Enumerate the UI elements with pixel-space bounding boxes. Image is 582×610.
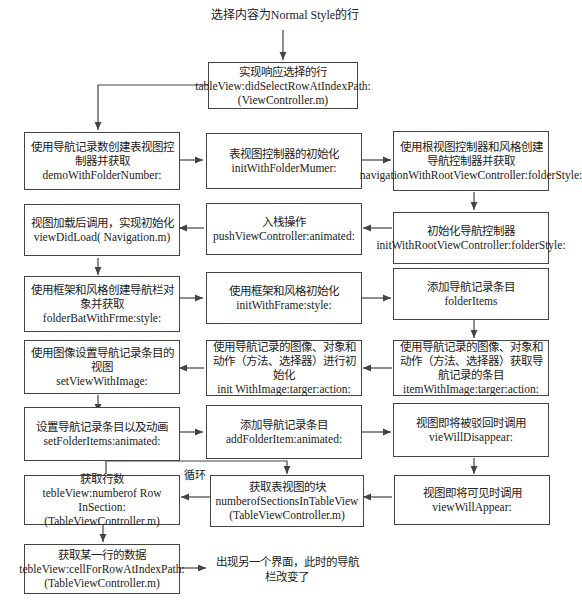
start-label: 选择内容为Normal Style的行: [200, 8, 370, 23]
node-set-folder-items: 设置导航记录条目以及动画 setFolderItems:animated:: [24, 407, 180, 461]
node-title: 添加导航记录条目: [240, 418, 328, 432]
node-title: 设置导航记录条目以及动画: [36, 420, 168, 434]
node-set-view-with-image: 使用图像设置导航记录条目的视图 setViewWithImage:: [24, 340, 180, 394]
node-demo-with-folder-number: 使用导航记录数创建表视图控制器并获取 demoWithFolderNumber:: [24, 132, 180, 190]
node-method: tableView:didSelectRowAtIndexPath:(ViewC…: [195, 79, 371, 107]
node-title: 使用导航记录的图像、对象和动作（方法、选择器）获取导航记录的条目: [397, 340, 545, 382]
node-method: pushViewController:animated:: [213, 229, 355, 243]
node-method: setFolderItems:animated:: [44, 434, 161, 448]
node-method: addFolderItem:animated:: [226, 432, 342, 446]
node-method: folderBatWithFrme:style:: [43, 311, 161, 325]
node-item-with-image: 使用导航记录的图像、对象和动作（方法、选择器）获取导航记录的条目 itemWit…: [393, 340, 549, 396]
node-view-did-load: 视图加载后调用，实现初始化 viewDidLoad( Navigation.m): [24, 204, 180, 256]
node-title: 使用图像设置导航记录条目的视图: [28, 346, 176, 374]
node-title: 视图即将被驳回时调用: [416, 416, 526, 430]
node-init-with-root-view-controller: 初始化导航控制器 initWithRootViewController:fold…: [393, 212, 549, 264]
node-method: viewDidLoad( Navigation.m): [34, 230, 171, 244]
node-method: initWithFrame:style:: [236, 298, 331, 312]
node-title: 表视图控制器的初始化: [229, 147, 339, 161]
node-number-of-sections: 获取表视图的块 numberofSectionsInTableView (Tab…: [210, 475, 364, 527]
node-method: init WithImage:targer:action:: [217, 382, 351, 396]
node-number-of-rows: 获取行数 tebleView:numberof Row InSection:(T…: [24, 475, 180, 525]
node-method: vieWillDisappear:: [429, 430, 513, 444]
node-method: demoWithFolderNumber:: [43, 168, 162, 182]
node-init-with-frame: 使用框架和风格初始化 initWithFrame:style:: [206, 272, 362, 324]
node-add-folder-item: 添加导航记录条目 addFolderItem:animated:: [206, 405, 362, 459]
node-title: 使用根视图控制器和风格创建导航控制器并获取: [397, 140, 545, 168]
node-method: navigationWithRootViewController:folderS…: [360, 168, 582, 182]
node-title: 获取行数: [80, 472, 124, 486]
node-title: 获取表视图的块: [249, 480, 326, 494]
node-method: numberofSectionsInTableView (TableViewCo…: [214, 494, 360, 522]
node-title: 视图加载后调用，实现初始化: [31, 216, 174, 230]
node-title: 使用框架和风格创建导航栏对象并获取: [28, 283, 176, 311]
node-method: tebleView:cellForRowAtIndexPath:(TableVi…: [19, 562, 184, 590]
node-title: 使用导航记录的图像、对象和动作（方法、选择器）进行初始化: [210, 340, 358, 382]
node-title: 添加导航记录条目: [427, 280, 515, 294]
node-method: tebleView:numberof Row InSection:(TableV…: [28, 486, 176, 528]
node-method: itemWithImage:targer:action:: [403, 382, 539, 396]
loop-label: 循环: [183, 468, 207, 483]
node-init-with-folder-mumer: 表视图控制器的初始化 initWithFolderMumer:: [206, 133, 362, 189]
node-title: 使用框架和风格初始化: [229, 284, 339, 298]
node-method: initWithRootViewController:folderStyle:: [376, 238, 565, 252]
node-method: initWithFolderMumer:: [232, 161, 337, 175]
node-folder-items: 添加导航记录条目 folderItems: [393, 268, 549, 320]
node-title: 使用导航记录数创建表视图控制器并获取: [28, 140, 176, 168]
node-folder-bat-with-frame: 使用框架和风格创建导航栏对象并获取 folderBatWithFrme:styl…: [24, 276, 180, 332]
node-method: viewWillAppear:: [432, 500, 511, 514]
end-label: 出现另一个界面，此时的导航栏改变了: [212, 555, 362, 585]
node-method: folderItems: [444, 294, 497, 308]
node-title: 初始化导航控制器: [427, 224, 515, 238]
node-cell-for-row: 获取某一行的数据 tebleView:cellForRowAtIndexPath…: [24, 544, 180, 594]
node-did-select-row: 实现响应选择的行 tableView:didSelectRowAtIndexPa…: [208, 62, 358, 109]
node-view-will-disappear: 视图即将被驳回时调用 vieWillDisappear:: [393, 403, 549, 457]
node-title: 入栈操作: [262, 215, 306, 229]
node-push-view-controller: 入栈操作 pushViewController:animated:: [206, 203, 362, 255]
node-method: setViewWithImage:: [56, 374, 147, 388]
node-title: 视图即将可见时调用: [423, 486, 522, 500]
node-title: 获取某一行的数据: [58, 548, 146, 562]
node-init-with-image: 使用导航记录的图像、对象和动作（方法、选择器）进行初始化 init WithIm…: [206, 340, 362, 396]
node-navigation-with-root: 使用根视图控制器和风格创建导航控制器并获取 navigationWithRoot…: [393, 131, 549, 191]
node-title: 实现响应选择的行: [239, 65, 327, 79]
node-view-will-appear: 视图即将可见时调用 viewWillAppear:: [394, 475, 550, 525]
